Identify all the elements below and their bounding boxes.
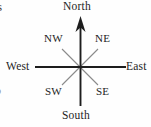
compass-rose-figure: s o - North South West East NW NE SW SE [0,0,151,127]
label-northwest: NW [44,33,63,44]
ray-southeast [80,67,98,85]
label-northeast: NE [95,33,110,44]
ray-northwest [62,49,80,67]
label-east: East [126,61,147,73]
ray-southwest [62,67,80,85]
label-southeast: SE [96,86,109,97]
label-west: West [6,61,30,73]
label-southwest: SW [45,86,62,97]
ray-northeast [80,49,98,67]
label-south: South [62,110,90,122]
label-north: North [63,1,91,13]
